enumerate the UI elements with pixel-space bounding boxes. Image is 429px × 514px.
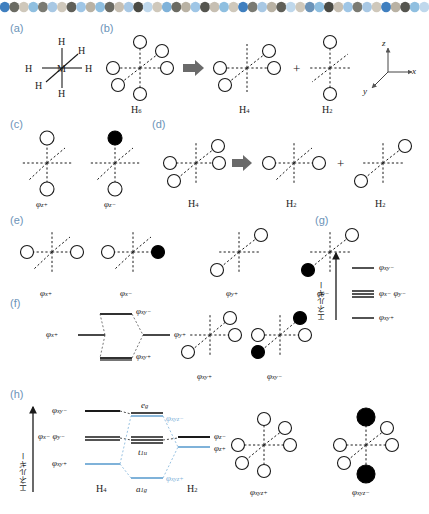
panel-b-arrow (183, 60, 204, 76)
panel-b-h6-cluster (107, 36, 174, 101)
panel-d-plus-sign: + (337, 156, 344, 172)
panel-h-center-levels (131, 413, 163, 478)
panel-tag-e: (e) (10, 214, 23, 226)
axis-label-y: y (363, 86, 367, 96)
orbital-label-y-plus: φy+ (226, 288, 238, 298)
panel-d-h2-cluster-2 (355, 140, 412, 188)
panel-d-h4-cluster (164, 140, 226, 188)
orbital-label-z-minus: φz− (104, 199, 116, 209)
panel-f-orbital-label-xy-minus: φxy− (267, 371, 282, 381)
coordinate-axes (372, 48, 412, 88)
symmetry-label-eg: eg (141, 400, 148, 410)
panel-tag-c: (c) (10, 118, 23, 130)
ligand-label-bottom: H (58, 88, 65, 99)
panel-h-left-label-2: φx− φy− (38, 431, 65, 441)
panel-h-orbital-label-xyz-plus: φxyz+ (250, 487, 268, 497)
panel-d-h2-cluster-1 (263, 143, 326, 183)
panel-h-left-levels (85, 411, 120, 464)
symmetry-label-t1u: t1u (138, 447, 147, 457)
orbital-label-x-minus: φx− (120, 288, 132, 298)
panel-h-right-label-1: φz− (214, 431, 226, 441)
panel-h-orbital-xyzminus (334, 408, 399, 483)
orbital-label-x-plus: φx+ (40, 288, 52, 298)
axis-label-x: x (412, 66, 416, 76)
panel-e-orbital-xplus (21, 232, 84, 272)
axis-label-z: z (382, 38, 386, 48)
panel-b-product-h2-label: H2 (322, 104, 332, 115)
panel-d-product-1-label: H2 (286, 198, 296, 209)
center-atom-label: M (57, 63, 66, 74)
panel-d-arrow (232, 155, 252, 171)
panel-h-orbital-xyzplus (232, 413, 297, 478)
panel-h-right-label-2: φz+ (214, 443, 226, 453)
panel-f-orbital-xyplus (182, 312, 242, 359)
panel-tag-g: (g) (315, 214, 328, 226)
ligand-label-left: H (25, 63, 32, 74)
panel-c-orbital-zplus (22, 131, 72, 196)
panel-f-left-level-label: φx+ (46, 329, 58, 339)
panel-h-center-label-xyz-minus: φxyz− (166, 413, 184, 423)
ligand-label-upper-right: H (78, 45, 85, 56)
panel-b-source-label: H6 (131, 104, 141, 115)
panel-h-left-label-3: φxy+ (52, 458, 67, 468)
panel-g-levels (352, 268, 374, 318)
panel-tag-d: (d) (152, 118, 165, 130)
panel-c-orbital-zminus (90, 131, 140, 196)
orbital-label-z-plus: φz+ (36, 199, 48, 209)
panel-h-center-label-xyz-plus: φxyz+ (166, 473, 184, 483)
panel-g-level-label-1: φxy− (379, 262, 394, 272)
panel-h-right-column-title: H2 (187, 483, 197, 494)
panel-f-right-level-label: φy+ (174, 329, 186, 339)
panel-h-energy-axis-label: エネルギー (18, 412, 29, 492)
panel-e-orbital-yplus (211, 229, 268, 277)
panel-b-h4-cluster (214, 44, 281, 92)
ligand-label-top: H (58, 36, 65, 47)
panel-f-orbital-label-xy-plus: φxy+ (197, 371, 212, 381)
ligand-label-right: H (85, 63, 92, 74)
panel-f-upper-level-label: φxy− (136, 306, 151, 316)
panel-d-product-2-label: H2 (375, 198, 385, 209)
panel-d-source-label: H4 (188, 198, 198, 209)
panel-f-level-diagram (78, 314, 170, 360)
panel-g-energy-axis-label: エネルギー (316, 255, 327, 321)
panel-g-level-label-2: φx− φy− (379, 288, 406, 298)
panel-g-level-label-3: φxy+ (379, 312, 394, 322)
panel-tag-a: (a) (10, 22, 23, 34)
panel-h-left-column-title: H4 (96, 483, 106, 494)
panel-e-orbital-yminus (302, 229, 359, 277)
panel-tag-b: (b) (100, 22, 113, 34)
panel-b-product-h4-label: H4 (239, 104, 249, 115)
figure-root: (a) (b) (c) (d) (e) (f) (g) (h) M H H H … (0, 0, 429, 514)
panel-f-lower-level-label: φxy+ (136, 351, 151, 361)
panel-tag-h: (h) (10, 388, 23, 400)
panel-b-h2-cluster (308, 36, 352, 101)
panel-f-orbital-xyminus (252, 312, 312, 359)
panel-h-right-levels (178, 437, 210, 447)
panel-h-left-label-1: φxy− (52, 405, 67, 415)
panel-tag-f: (f) (10, 297, 20, 309)
symmetry-label-a1g: a1g (136, 484, 147, 494)
panel-e-orbital-xminus (102, 232, 165, 272)
ligand-label-lower-left: H (35, 80, 42, 91)
panel-h-orbital-label-xyz-minus: φxyz− (352, 487, 370, 497)
panel-b-plus-sign: + (293, 61, 300, 77)
